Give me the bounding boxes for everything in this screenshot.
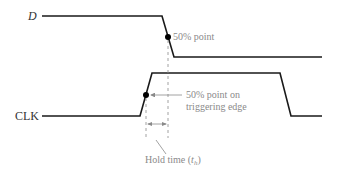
hold-time-left-arrow-icon bbox=[147, 122, 152, 126]
clk-waveform bbox=[42, 73, 322, 116]
timing-diagram: D 50% point CLK 50% point on triggering … bbox=[0, 0, 337, 179]
hold-time-leader-line bbox=[156, 140, 166, 154]
hold-time-right-arrow-icon bbox=[162, 122, 167, 126]
d-midpoint-label: 50% point bbox=[173, 31, 215, 42]
d-signal-label: D bbox=[27, 9, 37, 23]
d-midpoint-dot bbox=[165, 34, 171, 40]
hold-time-label: Hold time (th) bbox=[145, 154, 201, 167]
clk-midpoint-label-line2: triggering edge bbox=[186, 101, 247, 112]
clk-midpoint-dot bbox=[143, 92, 149, 98]
clk-signal-label: CLK bbox=[15, 109, 39, 123]
clk-midpoint-label-line1: 50% point on bbox=[186, 89, 240, 100]
